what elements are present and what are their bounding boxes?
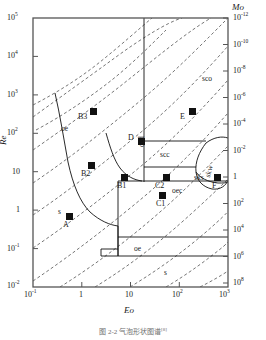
point-label-B2: B2 <box>81 169 90 178</box>
mo-axis-title: Mo <box>232 2 244 12</box>
marker-A[interactable] <box>66 213 73 220</box>
data-markers-group <box>66 108 221 220</box>
x-tick-label: 10-1 <box>24 290 37 299</box>
region-label-s-left: s <box>58 207 61 216</box>
point-label-A: A <box>63 220 69 229</box>
y-tick-label: 10-2 <box>7 281 20 290</box>
y-tick-label: 104 <box>7 51 18 60</box>
region-label-scc: scc <box>160 150 170 159</box>
partition-lines-group <box>101 18 228 256</box>
point-label-B1: B1 <box>117 181 126 190</box>
mo-tick-label: 10-6 <box>233 93 246 102</box>
point-label-C1: C1 <box>156 199 165 208</box>
region-label-s-bottom: s <box>164 268 167 277</box>
mo-isoline <box>33 18 228 183</box>
marker-B1[interactable] <box>121 174 128 181</box>
mo-tick-label: 10-12 <box>233 13 248 22</box>
y-axis-title: Re <box>0 136 8 146</box>
region-label-sks: sks <box>194 173 204 182</box>
x-tick-label: 103 <box>219 290 230 299</box>
marker-B3[interactable] <box>90 108 97 115</box>
y-tick-label: 105 <box>7 13 18 22</box>
mo-tick-label: 10-2 <box>233 146 246 155</box>
grace-bubble-shape-diagram: 105 104 103 102 10 1 10-1 10-2 10-1 1 10… <box>0 0 266 340</box>
mo-tick-label: 1 <box>233 172 237 181</box>
mo-tick-label: 106 <box>233 252 244 261</box>
marker-E[interactable] <box>189 108 196 115</box>
y-axis-ticks <box>33 56 38 248</box>
mo-isoline <box>166 242 228 287</box>
y-tick-label: 10-1 <box>7 244 20 253</box>
mo-tick-label: 108 <box>233 278 244 287</box>
mo-axis-ticks <box>223 18 228 283</box>
region-label-sco: sco <box>202 74 212 83</box>
y-tick-label: 102 <box>7 128 18 137</box>
y-tick-label: 103 <box>7 90 18 99</box>
point-label-E: E <box>180 112 185 121</box>
mo-tick-label: 104 <box>233 225 244 234</box>
point-label-C2: C2 <box>155 181 164 190</box>
marker-C2[interactable] <box>163 174 170 181</box>
mo-tick-label: 10-10 <box>233 40 248 49</box>
mo-tick-label: 10-8 <box>233 66 246 75</box>
marker-F[interactable] <box>214 174 221 181</box>
mo-isoline <box>33 18 152 105</box>
mo-tick-label: 10-4 <box>233 119 246 128</box>
mo-isoline <box>36 30 166 130</box>
mo-isolines-group <box>33 18 228 287</box>
figure-caption-text: 图 2-2 气泡形状图谱 <box>99 328 161 336</box>
y-tick-label: 1 <box>16 205 20 214</box>
region-label-oe-left: oe <box>61 124 68 133</box>
point-label-D: D <box>128 133 134 142</box>
region-label-oed: oed <box>137 136 146 147</box>
x-tick-label: 10 <box>125 290 133 299</box>
mo-isoline <box>33 18 211 150</box>
region-label-oec: oec <box>172 186 182 195</box>
marker-B2[interactable] <box>88 162 95 169</box>
point-label-F: F <box>212 181 216 190</box>
mo-isoline <box>130 211 228 287</box>
y-tick-label: 10 <box>12 167 20 176</box>
figure-caption-ref: [8] <box>161 327 167 332</box>
point-label-B3: B3 <box>78 112 87 121</box>
marker-C1[interactable] <box>159 192 166 199</box>
region-label-oe-bottom: oe <box>134 244 141 253</box>
figure-caption: 图 2-2 气泡形状图谱[8] <box>0 326 266 336</box>
boundary-skw-top <box>206 137 228 143</box>
mo-isoline <box>200 271 228 287</box>
x-tick-label: 102 <box>172 290 183 299</box>
x-axis-title: Eo <box>124 305 134 315</box>
mo-tick-label: 102 <box>233 199 244 208</box>
mo-isoline <box>33 18 182 117</box>
x-tick-label: 1 <box>79 290 83 299</box>
plot-frame <box>33 18 228 287</box>
